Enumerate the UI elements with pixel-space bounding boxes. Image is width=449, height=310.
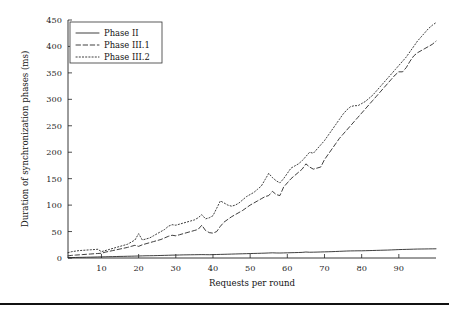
x-tick-label: 10 [96,263,106,273]
x-tick-label: 50 [245,263,255,273]
x-tick-label: 30 [171,263,181,273]
x-tick-label: 20 [133,263,143,273]
y-tick-label: 400 [46,41,62,51]
legend-label-0: Phase II [104,28,139,38]
figure-container: 0501001502002503003504004501020304050607… [0,0,449,310]
x-axis-title: Requests per round [209,278,295,288]
series-line-1 [68,41,436,256]
x-tick-label: 40 [208,263,218,273]
legend-label-2: Phase III.2 [104,52,150,62]
y-tick-label: 450 [46,15,62,25]
series-line-0 [68,249,436,258]
legend-label-1: Phase III.1 [104,40,150,50]
y-tick-label: 150 [46,174,62,184]
y-tick-label: 200 [46,147,62,157]
y-tick-label: 250 [46,121,62,131]
y-tick-label: 50 [52,227,62,237]
footer-rule [0,303,449,305]
y-tick-label: 100 [46,200,62,210]
y-tick-label: 350 [46,68,62,78]
y-axis-title: Duration of synchronization phases (ms) [20,51,30,227]
line-chart: 0501001502002503003504004501020304050607… [0,0,449,310]
y-tick-label: 0 [57,253,62,263]
x-tick-label: 80 [356,263,366,273]
y-tick-label: 300 [46,94,62,104]
x-tick-label: 70 [319,263,329,273]
x-tick-label: 60 [282,263,292,273]
x-tick-label: 90 [394,263,404,273]
